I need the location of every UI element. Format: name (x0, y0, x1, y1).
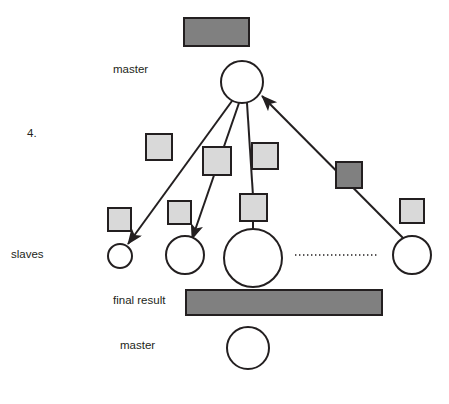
master-slave-diagram (0, 0, 449, 404)
slave-circle-3 (224, 229, 282, 287)
diagram-canvas: master 4. slaves final result master (0, 0, 449, 404)
slave-circle-n (393, 236, 431, 274)
task-square-2 (203, 147, 231, 175)
label-step-number: 4. (27, 128, 37, 140)
label-final-result: final result (113, 295, 165, 307)
task-square-7 (240, 194, 267, 221)
task-square-5 (108, 208, 131, 231)
task-square-8 (400, 199, 424, 223)
task-square-3 (252, 143, 278, 169)
slave-circle-2 (166, 236, 204, 274)
label-master-top: master (113, 64, 148, 76)
master-circle-bottom (227, 327, 269, 369)
final-result-bar (186, 290, 382, 315)
task-square-6 (168, 201, 191, 224)
task-square-1 (146, 134, 172, 160)
label-master-bottom: master (120, 340, 155, 352)
master-circle-top (221, 61, 263, 103)
label-slaves: slaves (11, 249, 44, 261)
top-task-bar (184, 18, 249, 46)
return-arrow-group (262, 96, 404, 239)
slave-circle-1 (108, 244, 132, 268)
task-square-4-dark (336, 162, 362, 188)
arrow-slave-n-to-master (262, 96, 404, 239)
